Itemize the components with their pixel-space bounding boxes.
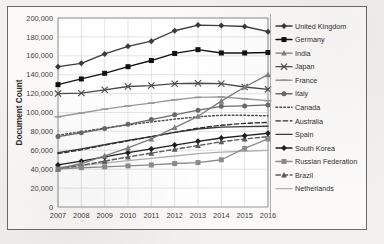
- x-tick-label: 2011: [143, 211, 159, 220]
- legend-item-brazil[interactable]: Brazil: [276, 171, 313, 180]
- marker-square: [149, 162, 154, 167]
- legend-item-japan[interactable]: Japan: [276, 62, 315, 71]
- marker-square: [56, 82, 61, 87]
- legend-label: United Kingdom: [295, 22, 346, 31]
- y-tick-label: 200,000: [26, 14, 53, 23]
- marker-square: [219, 50, 224, 55]
- marker-circle: [172, 112, 177, 117]
- legend-label: France: [295, 76, 317, 85]
- y-axis-title: Document Count: [15, 79, 24, 145]
- marker-square: [242, 50, 247, 55]
- marker-square: [196, 47, 201, 52]
- legend-label: Netherlands: [295, 184, 334, 193]
- marker-circle: [266, 102, 271, 107]
- legend-label: Spain: [295, 130, 313, 139]
- marker-square: [172, 51, 177, 56]
- x-tick-label: 2009: [96, 211, 112, 220]
- legend-label: Russian Federation: [295, 157, 357, 166]
- marker-square: [102, 164, 107, 169]
- legend-item-netherlands[interactable]: Netherlands: [276, 184, 334, 193]
- marker-square: [219, 157, 224, 162]
- legend-label: Japan: [295, 62, 315, 71]
- x-tick-label: 2015: [236, 211, 252, 220]
- marker-square: [172, 161, 177, 166]
- marker-circle: [102, 126, 107, 131]
- y-tick-label: 20,000: [30, 184, 53, 193]
- marker-diamond: [281, 23, 287, 29]
- chart-svg: 020,00040,00060,00080,000100,000120,0001…: [0, 0, 384, 244]
- y-tick-label: 160,000: [26, 51, 53, 60]
- marker-square: [102, 71, 107, 76]
- x-tick-label: 2010: [120, 211, 136, 220]
- legend-label: Australia: [295, 117, 323, 126]
- marker-square: [79, 165, 84, 170]
- legend-label: India: [295, 49, 311, 58]
- marker-diamond: [281, 145, 287, 151]
- legend-item-india[interactable]: India: [276, 49, 311, 58]
- marker-circle: [79, 130, 84, 135]
- marker-square: [79, 76, 84, 81]
- legend-label: Canada: [295, 103, 320, 112]
- marker-square: [282, 37, 287, 42]
- marker-circle: [56, 134, 61, 139]
- legend-item-canada[interactable]: Canada: [276, 103, 320, 112]
- marker-square: [282, 159, 287, 164]
- marker-square: [149, 58, 154, 63]
- marker-square: [266, 136, 271, 141]
- marker-circle: [219, 104, 224, 109]
- x-tick-label: 2016: [260, 211, 276, 220]
- y-tick-label: 120,000: [26, 89, 53, 98]
- y-tick-label: 180,000: [26, 33, 53, 42]
- marker-circle: [282, 91, 287, 96]
- legend-label: Italy: [295, 89, 309, 98]
- legend-item-russian-federation[interactable]: Russian Federation: [276, 157, 357, 166]
- marker-square: [196, 160, 201, 165]
- legend-item-italy[interactable]: Italy: [276, 89, 309, 98]
- marker-circle: [196, 108, 201, 113]
- marker-circle: [126, 122, 131, 127]
- legend-label: South Korea: [295, 144, 335, 153]
- x-tick-label: 2008: [73, 211, 89, 220]
- x-tick-label: 2007: [50, 211, 66, 220]
- legend-label: Brazil: [295, 171, 313, 180]
- marker-square: [266, 50, 271, 55]
- line-chart: 020,00040,00060,00080,000100,000120,0001…: [0, 0, 384, 244]
- marker-square: [242, 146, 247, 151]
- legend-item-germany[interactable]: Germany: [276, 35, 325, 44]
- y-tick-label: 60,000: [30, 146, 53, 155]
- y-tick-label: 80,000: [30, 127, 53, 136]
- legend-item-united-kingdom[interactable]: United Kingdom: [276, 22, 346, 31]
- marker-square: [126, 64, 131, 69]
- marker-square: [126, 163, 131, 168]
- y-tick-label: 40,000: [30, 165, 53, 174]
- x-tick-label: 2013: [190, 211, 206, 220]
- y-tick-label: 100,000: [26, 108, 53, 117]
- x-tick-label: 2014: [213, 211, 229, 220]
- legend-label: Germany: [295, 35, 325, 44]
- legend-item-spain[interactable]: Spain: [276, 130, 313, 139]
- legend-item-australia[interactable]: Australia: [276, 117, 323, 126]
- legend-item-south-korea[interactable]: South Korea: [276, 144, 335, 153]
- marker-circle: [242, 103, 247, 108]
- x-tick-label: 2012: [166, 211, 182, 220]
- legend: United KingdomGermanyIndiaJapanFranceIta…: [271, 14, 358, 218]
- legend-item-france[interactable]: France: [276, 76, 317, 85]
- chart-screenshot: 020,00040,00060,00080,000100,000120,0001…: [0, 0, 384, 244]
- y-tick-label: 140,000: [26, 70, 53, 79]
- marker-circle: [149, 117, 154, 122]
